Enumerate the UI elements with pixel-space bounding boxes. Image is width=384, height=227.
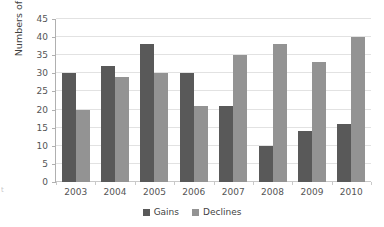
x-axis-tick-label-2006: 2006 bbox=[174, 186, 213, 198]
y-axis-tick-mark bbox=[52, 110, 56, 111]
x-axis-tick-label-2007: 2007 bbox=[214, 186, 253, 198]
y-axis-tick-label: 25 bbox=[30, 87, 48, 96]
bars-layer bbox=[56, 19, 371, 182]
bar-gains-2006[interactable] bbox=[180, 73, 194, 182]
legend-label: Gains bbox=[154, 207, 179, 217]
bar-declines-2008[interactable] bbox=[273, 44, 287, 182]
bar-declines-2006[interactable] bbox=[194, 106, 208, 182]
x-axis-tick-label-2008: 2008 bbox=[253, 186, 292, 198]
bar-declines-2007[interactable] bbox=[233, 55, 247, 182]
y-axis-tick-mark bbox=[52, 164, 56, 165]
cropped-edge-text: t bbox=[1, 186, 7, 195]
bar-group bbox=[56, 19, 95, 182]
x-axis-tick-mark bbox=[292, 182, 293, 185]
x-axis-tick-mark bbox=[56, 182, 57, 185]
y-axis-tick-mark bbox=[52, 91, 56, 92]
bar-declines-2004[interactable] bbox=[115, 77, 129, 182]
y-axis-tick-label: 30 bbox=[30, 69, 48, 78]
x-axis-tick-label-2004: 2004 bbox=[95, 186, 134, 198]
y-axis-tick-labels: 454035302520151050 bbox=[28, 19, 48, 182]
legend-item-gains[interactable]: Gains bbox=[143, 207, 179, 217]
x-axis-tick-mark bbox=[135, 182, 136, 185]
y-axis-tick-label: 10 bbox=[30, 142, 48, 151]
bar-declines-2005[interactable] bbox=[154, 73, 168, 182]
x-axis-tick-mark bbox=[253, 182, 254, 185]
legend-label: Declines bbox=[203, 207, 241, 217]
bar-group bbox=[292, 19, 331, 182]
x-axis-tick-mark bbox=[214, 182, 215, 185]
x-axis-tick-labels: 20032004200520062007200820092010 bbox=[56, 186, 371, 198]
y-axis-tick-mark bbox=[52, 128, 56, 129]
bar-group bbox=[332, 19, 371, 182]
bar-gains-2008[interactable] bbox=[259, 146, 273, 182]
y-axis-tick-mark bbox=[52, 146, 56, 147]
y-axis-tick-label: 35 bbox=[30, 51, 48, 60]
bar-gains-2010[interactable] bbox=[337, 124, 351, 182]
bar-group bbox=[253, 19, 292, 182]
legend-swatch-icon bbox=[143, 209, 150, 216]
x-axis-tick-mark bbox=[95, 182, 96, 185]
x-axis-tick-label-2009: 2009 bbox=[292, 186, 331, 198]
y-axis-tick-label: 40 bbox=[30, 33, 48, 42]
bar-gains-2004[interactable] bbox=[101, 66, 115, 182]
bar-gains-2005[interactable] bbox=[140, 44, 154, 182]
x-axis-tick-mark bbox=[174, 182, 175, 185]
bar-group bbox=[135, 19, 174, 182]
bar-declines-2009[interactable] bbox=[312, 62, 326, 182]
y-axis-tick-label: 45 bbox=[30, 15, 48, 24]
bar-gains-2003[interactable] bbox=[62, 73, 76, 182]
bar-group bbox=[95, 19, 134, 182]
bar-chart: t Numbers of countries 45403530252015105… bbox=[0, 0, 384, 227]
y-axis-tick-mark bbox=[52, 19, 56, 20]
legend-item-declines[interactable]: Declines bbox=[192, 207, 241, 217]
x-axis-tick-label-2010: 2010 bbox=[332, 186, 371, 198]
y-axis-tick-mark bbox=[52, 37, 56, 38]
x-axis-tick-label-2005: 2005 bbox=[135, 186, 174, 198]
plot-area bbox=[56, 19, 371, 182]
y-axis-title: Numbers of countries bbox=[12, 0, 26, 60]
bar-group bbox=[214, 19, 253, 182]
y-axis-tick-label: 15 bbox=[30, 124, 48, 133]
chart-legend: GainsDeclines bbox=[0, 205, 384, 219]
y-axis-tick-mark bbox=[52, 73, 56, 74]
y-axis-tick-label: 20 bbox=[30, 106, 48, 115]
bar-declines-2010[interactable] bbox=[351, 37, 365, 182]
y-axis-tick-label: 0 bbox=[30, 178, 48, 187]
x-axis-tick-mark bbox=[332, 182, 333, 185]
y-axis-tick-mark bbox=[52, 55, 56, 56]
x-axis-tick-mark bbox=[371, 182, 372, 185]
bar-gains-2009[interactable] bbox=[298, 131, 312, 182]
bar-gains-2007[interactable] bbox=[219, 106, 233, 182]
bar-group bbox=[174, 19, 213, 182]
legend-swatch-icon bbox=[192, 209, 199, 216]
y-axis-tick-label: 5 bbox=[30, 160, 48, 169]
x-axis-tick-label-2003: 2003 bbox=[56, 186, 95, 198]
bar-declines-2003[interactable] bbox=[76, 110, 90, 182]
